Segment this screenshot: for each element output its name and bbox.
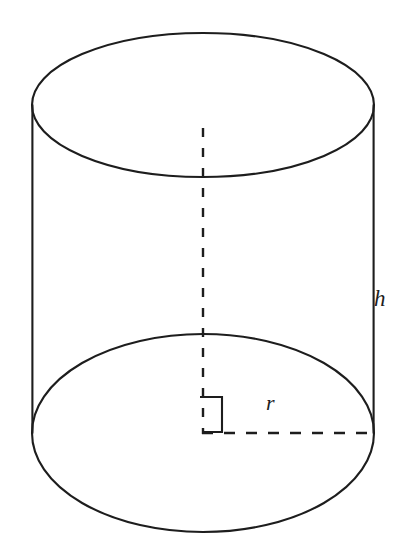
- cylinder-figure: h r: [0, 0, 412, 559]
- radius-label: r: [266, 392, 275, 414]
- cylinder-diagram-svg: [0, 0, 412, 559]
- height-label: h: [374, 287, 386, 310]
